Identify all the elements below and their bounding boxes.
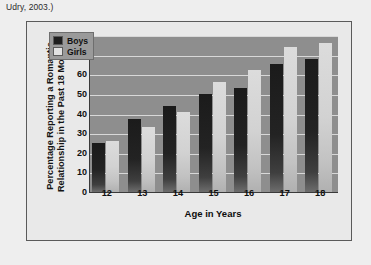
bar-group xyxy=(232,36,268,192)
x-axis-title: Age in Years xyxy=(89,208,337,219)
bar-group xyxy=(161,36,197,192)
figure-page: Udry, 2003.) Percentage Reporting a Roma… xyxy=(0,0,371,265)
legend-swatch-boys-icon xyxy=(53,36,63,45)
bar-girls-13 xyxy=(142,127,155,192)
y-tick-label: 30 xyxy=(65,128,87,138)
legend-item-girls: Girls xyxy=(53,46,88,57)
figure-caption: Udry, 2003.) xyxy=(6,2,53,12)
x-tick-label-18: 18 xyxy=(303,188,337,198)
legend-label-girls: Girls xyxy=(67,47,87,57)
bar-boys-17 xyxy=(270,64,283,192)
bar-boys-14 xyxy=(163,106,176,192)
bar-group xyxy=(126,36,162,192)
x-tick-label-12: 12 xyxy=(90,188,124,198)
x-tick-label-17: 17 xyxy=(268,188,302,198)
legend-label-boys: Boys xyxy=(67,36,88,46)
x-tick-label-14: 14 xyxy=(161,188,195,198)
bar-boys-13 xyxy=(128,119,141,192)
figure-frame: Percentage Reporting a Romantic Relation… xyxy=(26,21,352,241)
bar-girls-16 xyxy=(248,70,261,192)
y-tick-label: 0 xyxy=(65,187,87,197)
y-tick-label: 40 xyxy=(65,109,87,119)
y-tick-label: 60 xyxy=(65,69,87,79)
y-tick-label: 10 xyxy=(65,167,87,177)
bar-girls-12 xyxy=(106,141,119,192)
bar-group xyxy=(303,36,339,192)
y-tick-label: 50 xyxy=(65,89,87,99)
y-tick-label: 20 xyxy=(65,148,87,158)
bar-group xyxy=(268,36,304,192)
bar-boys-16 xyxy=(234,88,247,192)
legend-item-boys: Boys xyxy=(53,35,88,46)
chart-legend: Boys Girls xyxy=(49,32,94,60)
bar-boys-12 xyxy=(92,143,105,192)
bar-girls-18 xyxy=(319,43,332,192)
x-tick-label-16: 16 xyxy=(232,188,266,198)
x-tick-label-13: 13 xyxy=(125,188,159,198)
bar-group xyxy=(90,36,126,192)
plot-grid xyxy=(89,36,338,193)
bar-girls-15 xyxy=(213,82,226,192)
bar-girls-14 xyxy=(177,112,190,192)
bar-group xyxy=(197,36,233,192)
x-tick-label-15: 15 xyxy=(197,188,231,198)
bar-boys-18 xyxy=(305,59,318,192)
bar-boys-15 xyxy=(199,94,212,192)
legend-swatch-girls-icon xyxy=(53,47,63,56)
plot-area: Percentage Reporting a Romantic Relation… xyxy=(43,28,339,234)
bar-girls-17 xyxy=(284,47,297,192)
